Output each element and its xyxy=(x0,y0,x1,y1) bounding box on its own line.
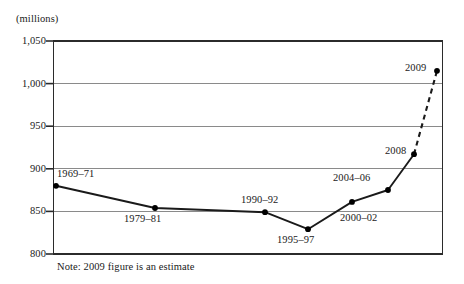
data-point-1995-97 xyxy=(305,226,311,232)
data-point-2000-02 xyxy=(349,199,355,205)
data-label-1990-92: 1990–92 xyxy=(241,194,278,205)
data-label-2000-02: 2000–02 xyxy=(340,212,377,223)
chart-note: Note: 2009 figure is an estimate xyxy=(57,261,195,272)
data-point-1969-71 xyxy=(53,183,59,189)
data-label-2004-06: 2004–06 xyxy=(333,172,370,183)
y-axis-tickmarks xyxy=(46,41,53,254)
data-label-1979-81: 1979–81 xyxy=(124,213,161,224)
data-point-markers xyxy=(53,68,440,232)
data-label-2009: 2009 xyxy=(405,62,426,73)
data-label-2008: 2008 xyxy=(385,145,406,156)
chart-figure: (millions) 1,050 1,000 950 900 850 800 xyxy=(0,0,464,284)
plot-area xyxy=(0,0,464,284)
data-point-2008 xyxy=(411,151,417,157)
data-point-2009 xyxy=(434,68,440,74)
data-point-1990-92 xyxy=(262,209,268,215)
data-label-1995-97: 1995–97 xyxy=(277,234,314,245)
data-point-2004-06 xyxy=(385,187,391,193)
data-point-1979-81 xyxy=(152,205,158,211)
data-label-1969-71: 1969–71 xyxy=(57,168,94,179)
